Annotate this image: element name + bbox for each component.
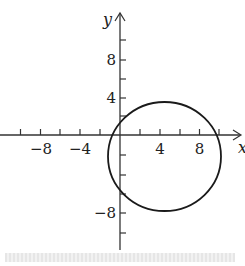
x-axis-label: x bbox=[238, 138, 245, 157]
x-tick-label-4: 4 bbox=[155, 140, 165, 158]
x-tick-label-minus8: −8 bbox=[30, 140, 52, 158]
y-axis-label: y bbox=[102, 10, 113, 29]
y-tick-label-8: 8 bbox=[106, 51, 116, 69]
y-ticks bbox=[120, 40, 126, 233]
chart-plot: −8 −4 4 8 8 4 −8 y x bbox=[0, 0, 245, 266]
x-tick-label-8: 8 bbox=[195, 140, 205, 158]
y-tick-label-4: 4 bbox=[106, 89, 116, 107]
x-tick-label-minus4: −4 bbox=[69, 140, 91, 158]
caption-bar bbox=[5, 253, 235, 262]
y-tick-label-minus8: −8 bbox=[94, 204, 116, 222]
